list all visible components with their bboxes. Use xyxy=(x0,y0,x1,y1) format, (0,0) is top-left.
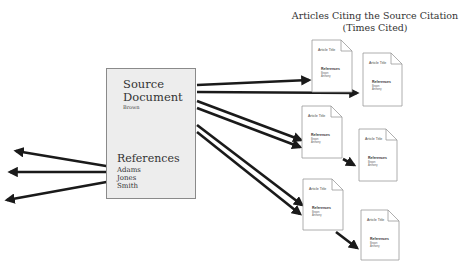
article-references-label: References xyxy=(311,133,330,137)
article-reference: Anthony xyxy=(372,88,382,91)
article-title: Article Title xyxy=(369,61,386,65)
article-reference: Anthony xyxy=(321,75,331,78)
citing-article-5: Article Title References Brown Anthony xyxy=(303,179,343,230)
article-references-label: References xyxy=(312,206,331,210)
article-title: Article Title xyxy=(309,187,326,191)
citing-arrow-1 xyxy=(197,80,309,85)
citing-arrow-3b xyxy=(197,108,300,147)
title-line1: Articles Citing the Source Citation xyxy=(290,10,459,22)
reference-arrow-adams xyxy=(16,151,112,167)
source-title-line1: Source xyxy=(123,78,183,91)
article-reference: Anthony xyxy=(370,245,380,248)
article-reference: Anthony xyxy=(311,141,321,144)
source-document: Source Document Brown References Adams J… xyxy=(106,68,196,199)
citing-article-6: Article Title References Brown Anthony xyxy=(361,210,399,260)
article-references-label: References xyxy=(368,156,387,160)
references-heading: References xyxy=(117,152,180,165)
citing-arrow-3 xyxy=(197,101,301,140)
reference-item: Jones xyxy=(117,174,136,182)
citing-arrow-6 xyxy=(336,232,357,248)
citing-article-1: Article Title References Brown Anthony xyxy=(312,40,352,92)
citing-article-2: Article Title References Brown Anthony xyxy=(363,53,402,106)
diagram-title: Articles Citing the Source Citation (Tim… xyxy=(290,10,459,34)
article-reference: Anthony xyxy=(312,214,322,217)
article-references-label: References xyxy=(372,80,391,84)
source-title-line2: Document xyxy=(123,91,183,104)
source-title: Source Document xyxy=(123,78,183,103)
article-title: Article Title xyxy=(367,218,384,222)
article-reference: Anthony xyxy=(368,164,378,167)
article-title: Article Title xyxy=(308,114,325,118)
article-title: Article Title xyxy=(318,48,335,52)
citing-article-4: Article Title References Brown Anthony xyxy=(359,129,397,181)
citing-arrow-5b xyxy=(197,132,300,214)
source-author: Brown xyxy=(123,104,140,110)
citing-arrow-4 xyxy=(343,159,354,165)
citing-article-3: Article Title References Brown Anthony xyxy=(302,106,342,158)
reference-arrow-smith xyxy=(7,181,112,200)
reference-item: Adams xyxy=(117,166,141,174)
reference-item: Smith xyxy=(117,182,138,190)
title-line2: (Times Cited) xyxy=(290,22,459,34)
article-references-label: References xyxy=(370,237,389,241)
article-references-label: References xyxy=(321,67,340,71)
article-title: Article Title xyxy=(365,137,382,141)
citation-diagram: Articles Citing the Source Citation (Tim… xyxy=(0,0,459,267)
citing-arrow-5 xyxy=(197,125,302,205)
